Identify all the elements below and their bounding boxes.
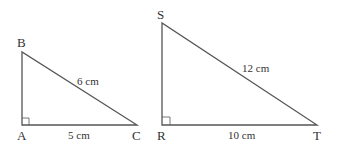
right-angle-marker-a xyxy=(22,118,29,125)
vertex-label-b: B xyxy=(17,35,26,50)
triangle-abc-shape xyxy=(22,52,137,125)
vertex-label-s: S xyxy=(157,7,164,22)
triangle-rst-shape xyxy=(162,23,317,125)
base-length-rt: 10 cm xyxy=(228,129,256,141)
vertex-label-c: C xyxy=(132,128,141,143)
vertex-label-t: T xyxy=(313,128,321,143)
vertex-label-a: A xyxy=(17,128,27,143)
vertex-label-r: R xyxy=(157,128,166,143)
hypotenuse-length-bc: 6 cm xyxy=(77,75,99,87)
triangle-abc: B A C 6 cm 5 cm xyxy=(17,35,141,143)
hypotenuse-length-st: 12 cm xyxy=(242,62,270,74)
base-length-ac: 5 cm xyxy=(68,129,90,141)
triangle-rst: S R T 12 cm 10 cm xyxy=(157,7,321,143)
right-angle-marker-r xyxy=(162,117,170,125)
similar-triangles-diagram: B A C 6 cm 5 cm S R T 12 cm 10 cm xyxy=(0,0,341,147)
